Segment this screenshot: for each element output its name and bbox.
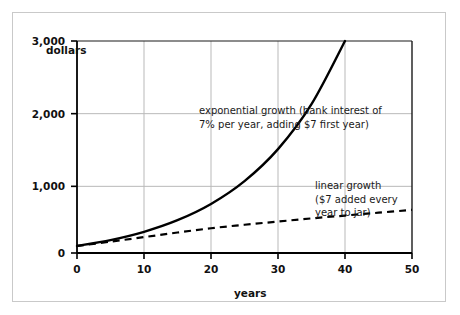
linear-growth-annotation: linear growth ($7 added every year to ja… (315, 179, 398, 220)
x-tick-label-0: 0 (57, 263, 97, 275)
growth-comparison-chart (13, 13, 447, 303)
y-tick-label-0: 0 (21, 247, 65, 259)
y-tick-label-1000: 1,000 (21, 180, 65, 192)
y-tick-label-2000: 2,000 (21, 108, 65, 120)
exponential-growth-annotation: exponential growth (bank interest of 7% … (199, 104, 382, 131)
x-tick-label-50: 50 (392, 263, 432, 275)
chart-frame: dollars years 0 1,000 2,000 3,000 0 10 2… (12, 12, 446, 302)
y-tick-label-3000: 3,000 (21, 35, 65, 47)
x-tick-label-10: 10 (124, 263, 164, 275)
x-tick-label-30: 30 (258, 263, 298, 275)
x-axis-title: years (234, 287, 266, 299)
x-tick-label-40: 40 (325, 263, 365, 275)
x-tick-label-20: 20 (191, 263, 231, 275)
plot-background (77, 41, 412, 253)
